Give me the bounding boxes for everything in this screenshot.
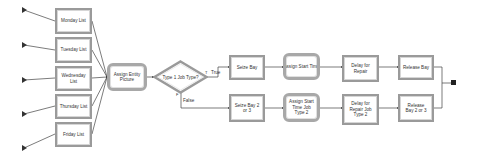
- delay-for-repair-job-type-2-label: Delay for Repair Job Type 2: [345, 101, 376, 117]
- seize-bay-module[interactable]: Seize Bay: [229, 55, 265, 80]
- create-module-icon[interactable]: [22, 145, 27, 151]
- job-type-decision-module[interactable]: Type 1 Job Type?: [153, 60, 208, 94]
- true-branch-label: True: [211, 70, 220, 75]
- assign-entity-picture-module[interactable]: Assign Entity Picture: [107, 63, 147, 91]
- assign-start-time-label: Assign Start Time: [284, 64, 320, 69]
- assign-start-time-module[interactable]: Assign Start Time: [283, 53, 320, 80]
- assign-entity-picture-label: Assign Entity Picture: [111, 72, 143, 83]
- release-bay-module[interactable]: Release Bay: [398, 55, 434, 80]
- create-module-icon[interactable]: [22, 42, 27, 48]
- release-bay-2-or-3-label: Release Bay 2 or 3: [401, 103, 431, 114]
- assign-start-time-job-type-2-module[interactable]: Assign Start Time Job Type 2: [283, 93, 320, 122]
- wednesday-list-module[interactable]: Wednesday List: [55, 66, 92, 91]
- tuesday-list-module[interactable]: Tuesday List: [55, 37, 92, 63]
- friday-list-label: Friday List: [63, 132, 84, 137]
- decision-label: Type 1 Job Type?: [162, 75, 198, 80]
- monday-list-module[interactable]: Monday List: [55, 8, 92, 34]
- delay-for-repair-module[interactable]: Delay for Repair: [342, 55, 379, 82]
- create-module-icon[interactable]: [22, 111, 27, 117]
- dispose-module-icon[interactable]: [451, 80, 456, 85]
- delay-for-repair-label: Delay for Repair: [345, 63, 376, 74]
- wednesday-list-label: Wednesday List: [58, 73, 89, 84]
- thursday-list-module[interactable]: Thursday List: [55, 94, 92, 119]
- tuesday-list-label: Tuesday List: [61, 47, 87, 52]
- create-module-icon[interactable]: [22, 77, 27, 83]
- create-module-icon[interactable]: [22, 7, 27, 13]
- release-bay-2-or-3-module[interactable]: Release Bay 2 or 3: [398, 94, 434, 122]
- assign-start-time-job-type-2-label: Assign Start Time Job Type 2: [287, 99, 316, 115]
- friday-list-module[interactable]: Friday List: [55, 122, 92, 147]
- monday-list-label: Monday List: [61, 18, 86, 23]
- release-bay-label: Release Bay: [403, 65, 429, 70]
- false-branch-label: False: [183, 98, 194, 103]
- seize-bay-2-or-3-module[interactable]: Seize Bay 2 or 3: [229, 94, 265, 122]
- false-marker: F: [176, 92, 178, 97]
- delay-for-repair-job-type-2-module[interactable]: Delay for Repair Job Type 2: [342, 94, 379, 125]
- seize-bay-2-or-3-label: Seize Bay 2 or 3: [232, 103, 262, 114]
- thursday-list-label: Thursday List: [60, 104, 88, 109]
- true-marker: T: [205, 70, 207, 75]
- seize-bay-label: Seize Bay: [237, 65, 258, 70]
